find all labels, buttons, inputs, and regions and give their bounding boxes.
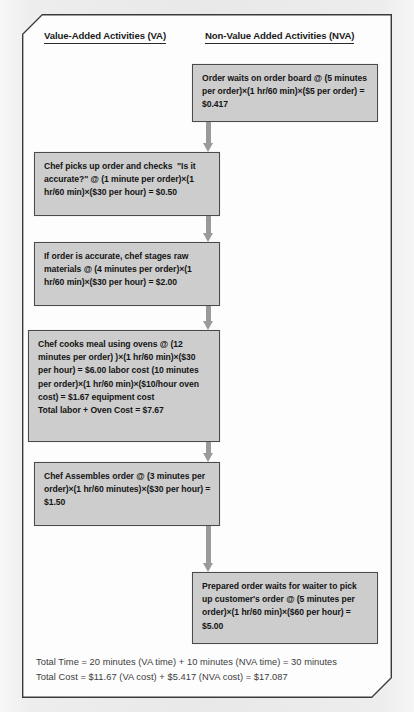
process-node-chef-assembles-order: Chef Assembles order @ (3 minutes per or… xyxy=(34,462,220,526)
process-node-chef-stages-raw-materials: If order is accurate, chef stages raw ma… xyxy=(34,242,220,306)
flow-arrow-4 xyxy=(203,442,214,462)
flow-arrow-1 xyxy=(203,122,214,152)
flow-arrow-3 xyxy=(203,306,214,330)
summary-total-cost: Total Cost = $11.67 (VA cost) + $5.417 (… xyxy=(36,670,386,685)
process-node-chef-picks-up-order: Chef picks up order and checks "Is it ac… xyxy=(34,152,220,216)
process-node-prepared-order-waits: Prepared order waits for waiter to pick … xyxy=(192,572,378,644)
process-node-order-waits-on-board: Order waits on order board @ (5 minutes … xyxy=(192,64,378,122)
flow-arrow-2 xyxy=(203,216,214,242)
arrow-shaft xyxy=(206,216,211,233)
arrow-head-icon xyxy=(203,563,213,572)
arrow-shaft xyxy=(206,122,211,143)
arrow-head-icon xyxy=(203,453,213,462)
column-header-value-added: Value-Added Activities (VA) xyxy=(44,30,166,44)
arrow-head-icon xyxy=(203,143,213,152)
process-node-chef-cooks-meal: Chef cooks meal using ovens @ (12 minute… xyxy=(28,330,220,442)
summary-total-time: Total Time = 20 minutes (VA time) + 10 m… xyxy=(36,655,386,670)
flow-arrow-5 xyxy=(203,526,214,572)
column-header-non-value-added: Non-Value Added Activities (NVA) xyxy=(205,30,354,44)
arrow-head-icon xyxy=(203,321,213,330)
arrow-head-icon xyxy=(203,233,213,242)
arrow-shaft xyxy=(206,526,211,563)
arrow-shaft xyxy=(206,442,211,453)
arrow-shaft xyxy=(206,306,211,321)
summary-block: Total Time = 20 minutes (VA time) + 10 m… xyxy=(36,655,386,685)
